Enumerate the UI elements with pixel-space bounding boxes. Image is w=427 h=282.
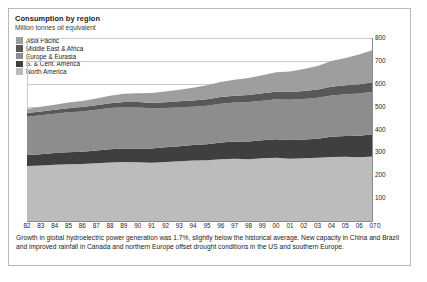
- x-tick-label-91: 91: [148, 222, 155, 229]
- y-tick-label-300: 300: [375, 148, 403, 155]
- chart-panel: Consumption by region Million tonnes oil…: [8, 8, 411, 266]
- y-tick-label-200: 200: [375, 171, 403, 178]
- x-tick-label-92: 92: [162, 222, 169, 229]
- chart-header: Consumption by region Million tonnes oil…: [15, 14, 100, 31]
- x-tick-label-89: 89: [120, 222, 127, 229]
- legend-swatch-europe-eurasia: [16, 53, 23, 60]
- x-tick-label-84: 84: [51, 222, 58, 229]
- y-tick-label-600: 600: [375, 80, 403, 87]
- x-tick-label-02: 02: [300, 222, 307, 229]
- chart-title: Consumption by region: [15, 14, 100, 23]
- x-tick-label-04: 04: [328, 222, 335, 229]
- x-tick-label-90: 90: [134, 222, 141, 229]
- legend-swatch-middle-east-africa: [16, 45, 23, 52]
- y-axis-zero-label: 0: [377, 222, 381, 229]
- x-tick-label-96: 96: [217, 222, 224, 229]
- x-tick-label-82: 82: [23, 222, 30, 229]
- x-tick-label-03: 03: [314, 222, 321, 229]
- chart-subtitle: Million tonnes oil equivalent: [15, 24, 100, 31]
- x-tick-label-01: 01: [286, 222, 293, 229]
- plot-area: 100200300400500600700800: [27, 38, 373, 221]
- x-tick-label-94: 94: [190, 222, 197, 229]
- x-axis-labels: 8283848586878889909192939495969798990001…: [27, 222, 373, 232]
- y-tick-label-700: 700: [375, 57, 403, 64]
- area-north-america: [27, 156, 373, 221]
- x-tick-label-93: 93: [176, 222, 183, 229]
- stacked-area-series: [27, 38, 373, 221]
- x-tick-label-83: 83: [37, 222, 44, 229]
- chart-caption: Growth in global hydroelectric power gen…: [16, 234, 402, 251]
- x-tick-label-88: 88: [107, 222, 114, 229]
- x-tick-label-95: 95: [203, 222, 210, 229]
- x-tick-label-98: 98: [245, 222, 252, 229]
- legend-swatch-s-cent-america: [16, 61, 23, 68]
- y-tick-label-500: 500: [375, 103, 403, 110]
- x-tick-label-06: 06: [356, 222, 363, 229]
- x-tick-label-07: 07: [369, 222, 376, 229]
- x-tick-label-99: 99: [259, 222, 266, 229]
- legend-swatch-north-america: [16, 68, 23, 75]
- y-tick-label-800: 800: [375, 34, 403, 41]
- x-tick-label-97: 97: [231, 222, 238, 229]
- y-axis-line: [372, 38, 373, 222]
- x-tick-label-00: 00: [273, 222, 280, 229]
- x-tick-label-86: 86: [79, 222, 86, 229]
- x-tick-label-87: 87: [93, 222, 100, 229]
- x-tick-label-05: 05: [342, 222, 349, 229]
- y-tick-label-400: 400: [375, 126, 403, 133]
- y-tick-label-100: 100: [375, 194, 403, 201]
- x-tick-label-85: 85: [65, 222, 72, 229]
- legend-swatch-asia-pacific: [16, 37, 23, 44]
